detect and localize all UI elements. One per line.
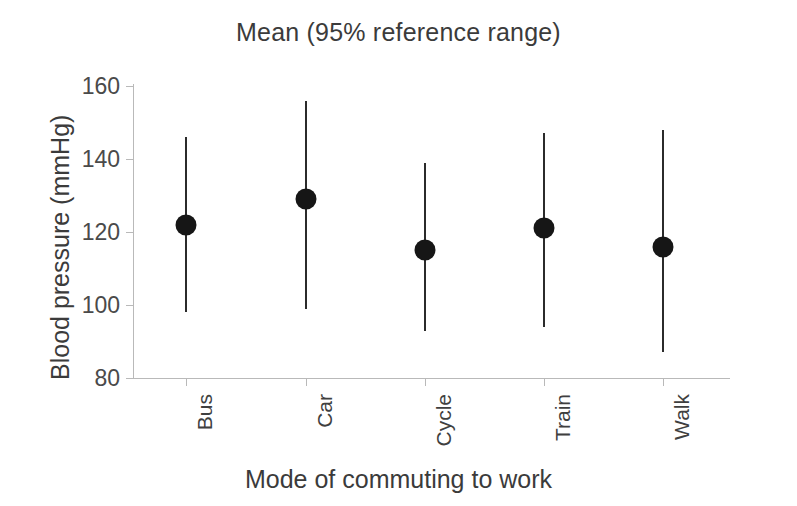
x-axis-line xyxy=(133,378,730,379)
y-axis-title: Blood pressure (mmHg) xyxy=(46,115,75,380)
x-axis-title: Mode of commuting to work xyxy=(0,465,797,494)
blood-pressure-error-bar-chart: Mean (95% reference range) 8010012014016… xyxy=(0,0,797,506)
x-axis-tick-label-walk: Walk xyxy=(671,394,692,440)
chart-title: Mean (95% reference range) xyxy=(0,18,797,47)
x-axis-tick xyxy=(544,379,545,386)
y-axis-tick xyxy=(126,86,134,87)
x-axis-tick-label-train: Train xyxy=(552,394,573,441)
y-axis-tick xyxy=(126,305,134,306)
x-axis-tick xyxy=(186,379,187,386)
y-axis-tick xyxy=(126,232,134,233)
y-axis-tick xyxy=(126,159,134,160)
x-axis-tick-label-car: Car xyxy=(314,394,335,428)
x-axis-tick-label-cycle: Cycle xyxy=(433,394,454,447)
y-axis-tick xyxy=(126,378,134,379)
x-axis-tick xyxy=(306,379,307,386)
plot-area xyxy=(134,86,730,378)
x-axis-tick-label-bus: Bus xyxy=(194,394,215,430)
x-axis-tick xyxy=(663,379,664,386)
data-point-walk xyxy=(134,86,730,378)
y-axis-tick-label: 160 xyxy=(62,75,120,98)
mean-marker xyxy=(653,236,674,257)
x-axis-tick xyxy=(425,379,426,386)
